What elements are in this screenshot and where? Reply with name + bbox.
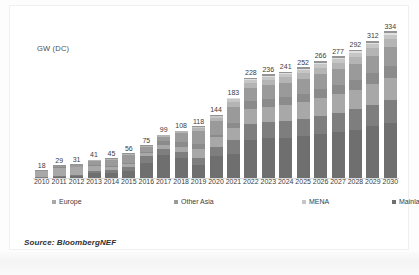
- bar-column: [366, 41, 379, 178]
- bar-value-label: 277: [332, 48, 344, 55]
- x-tick-2025: 2025: [295, 178, 311, 185]
- bar-value-label: 56: [125, 145, 133, 152]
- bar-segment: [244, 140, 257, 178]
- bar-segment: [384, 39, 397, 47]
- x-tick-2026: 2026: [313, 178, 329, 185]
- bar-segment: [227, 154, 240, 178]
- bar-segment: [262, 99, 275, 107]
- legend-item[interactable]: Other Asia: [174, 198, 302, 205]
- bar-value-label: 31: [73, 156, 81, 163]
- bar-segment: [297, 119, 310, 137]
- bar-value-label: 334: [384, 23, 396, 30]
- x-tick-2022: 2022: [243, 178, 259, 185]
- bar-column: [88, 160, 101, 178]
- bar-value-label: 45: [108, 150, 116, 157]
- bar-segment: [279, 105, 292, 121]
- bar-segment: [70, 167, 83, 174]
- x-axis-tick-labels: 2010201120122013201420152016201720182019…: [33, 178, 399, 190]
- bar-segment: [332, 113, 345, 132]
- bar-segment: [279, 138, 292, 178]
- bar-column: [122, 153, 135, 178]
- bar-segment: [366, 126, 379, 178]
- bar-segment: [332, 94, 345, 112]
- x-tick-2027: 2027: [330, 178, 346, 185]
- legend-swatch-icon: [302, 200, 306, 204]
- bar-segment: [175, 133, 188, 142]
- bar-segment: [122, 155, 135, 163]
- bar-segment: [244, 109, 257, 124]
- bar-segment: [262, 122, 275, 138]
- bar-segment: [314, 116, 327, 134]
- bar-value-label: 241: [280, 63, 292, 70]
- x-tick-2021: 2021: [226, 178, 242, 185]
- bar-segment: [297, 102, 310, 119]
- x-tick-2011: 2011: [52, 178, 67, 185]
- bar-value-label: 312: [367, 32, 379, 39]
- bar-value-label: 144: [210, 106, 222, 113]
- bar-segment: [314, 134, 327, 178]
- bar-column: [262, 74, 275, 178]
- bar-segment: [297, 136, 310, 178]
- bar-segment: [227, 128, 240, 140]
- bar-segment: [227, 107, 240, 123]
- x-tick-2015: 2015: [121, 178, 137, 185]
- bar-segment: [384, 78, 397, 100]
- bar-segment: [279, 121, 292, 138]
- bar-segment: [384, 47, 397, 66]
- bar-segment: [349, 130, 362, 178]
- bar-column: [140, 145, 153, 178]
- bar-value-label: 18: [38, 162, 46, 169]
- x-tick-2017: 2017: [156, 178, 172, 185]
- bar-value-label: 183: [228, 89, 240, 96]
- bar-segment: [366, 56, 379, 74]
- bar-value-label: 41: [90, 151, 98, 158]
- x-tick-2016: 2016: [138, 178, 154, 185]
- bar-column: [53, 165, 66, 178]
- x-tick-2012: 2012: [69, 178, 85, 185]
- bar-value-label: 118: [193, 118, 204, 125]
- bar-segment: [244, 101, 257, 108]
- bar-segment: [140, 163, 153, 178]
- stacked-bar-plot: 1829314145567599108118144183228236241252…: [33, 24, 399, 178]
- scan-edge-shadow: [0, 252, 419, 275]
- x-tick-2023: 2023: [260, 178, 276, 185]
- bar-column: [349, 50, 362, 178]
- bar-segment: [192, 149, 205, 158]
- bar-segment: [262, 85, 275, 99]
- legend-item[interactable]: Mainland China: [392, 198, 419, 205]
- bar-value-label: 228: [245, 69, 257, 76]
- legend-label: Europe: [59, 198, 82, 205]
- bar-segment: [349, 80, 362, 90]
- bar-column: [314, 61, 327, 178]
- bar-segment: [244, 88, 257, 101]
- x-tick-2030: 2030: [382, 178, 398, 185]
- chart-legend: EuropeOther AsiaMENAMainland ChinaNorth …: [52, 196, 392, 208]
- legend-item[interactable]: MENA: [302, 198, 392, 205]
- bar-column: [297, 67, 310, 178]
- x-tick-2010: 2010: [34, 178, 50, 185]
- bar-segment: [366, 84, 379, 105]
- bar-value-label: 29: [55, 157, 63, 164]
- legend-label: Other Asia: [181, 198, 214, 205]
- bar-segment: [332, 85, 345, 94]
- bar-segment: [366, 73, 379, 84]
- bar-segment: [192, 158, 205, 165]
- bar-segment: [262, 107, 275, 122]
- source-attribution: Source: BloombergNEF: [24, 238, 116, 247]
- bar-value-label: 99: [160, 126, 168, 133]
- bar-segment: [53, 168, 66, 176]
- legend-item[interactable]: Europe: [52, 198, 174, 205]
- bar-segment: [314, 89, 327, 98]
- bar-segment: [297, 94, 310, 102]
- bar-column: [175, 130, 188, 178]
- bar-segment: [105, 160, 118, 167]
- bar-column: [384, 31, 397, 178]
- bar-segment: [384, 123, 397, 178]
- bar-segment: [192, 131, 205, 144]
- chart-figure: GW (DC) 18293141455675991081181441832282…: [0, 0, 419, 275]
- bar-segment: [349, 64, 362, 81]
- bar-column: [157, 134, 170, 178]
- x-tick-2024: 2024: [278, 178, 294, 185]
- bar-column: [332, 56, 345, 178]
- bar-segment: [157, 155, 170, 178]
